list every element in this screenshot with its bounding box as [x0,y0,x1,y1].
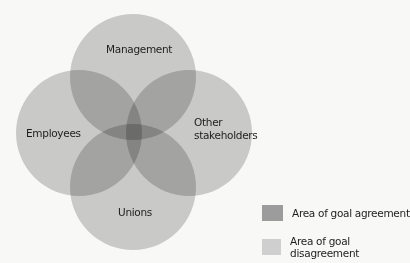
legend-disagreement: Area of goal disagreement [262,235,410,259]
label-other-line1: Other [194,116,222,129]
legend-agreement-label: Area of goal agreement [292,207,410,219]
label-management: Management [106,43,172,56]
label-unions: Unions [118,206,152,219]
label-employees: Employees [26,127,81,140]
swatch-agreement [262,205,283,221]
legend-agreement: Area of goal agreement [262,205,410,221]
swatch-disagreement [262,239,281,255]
circle-unions [70,124,196,250]
legend-disagreement-label: Area of goal disagreement [290,235,410,259]
label-other-line2: stakeholders [194,129,258,142]
